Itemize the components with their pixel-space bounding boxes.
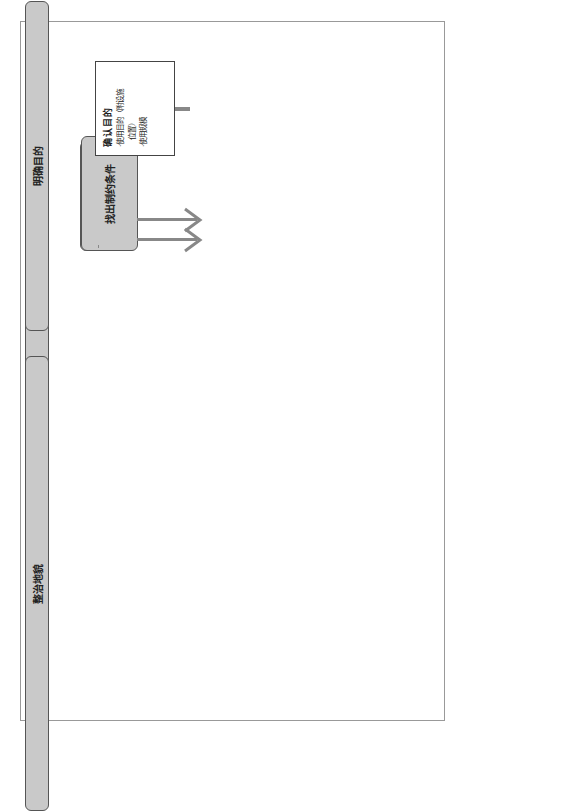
stage-label: 整治地貌 xyxy=(30,564,45,604)
stage-label: 明确目的 xyxy=(30,146,45,186)
stage-clarify-purpose: 明确目的 xyxy=(25,1,49,331)
flow-diagram: 明确目的 整治地貌 xyxy=(0,0,575,811)
outer-frame xyxy=(20,21,445,721)
stage-site-grading: 整治地貌 xyxy=(25,356,49,811)
